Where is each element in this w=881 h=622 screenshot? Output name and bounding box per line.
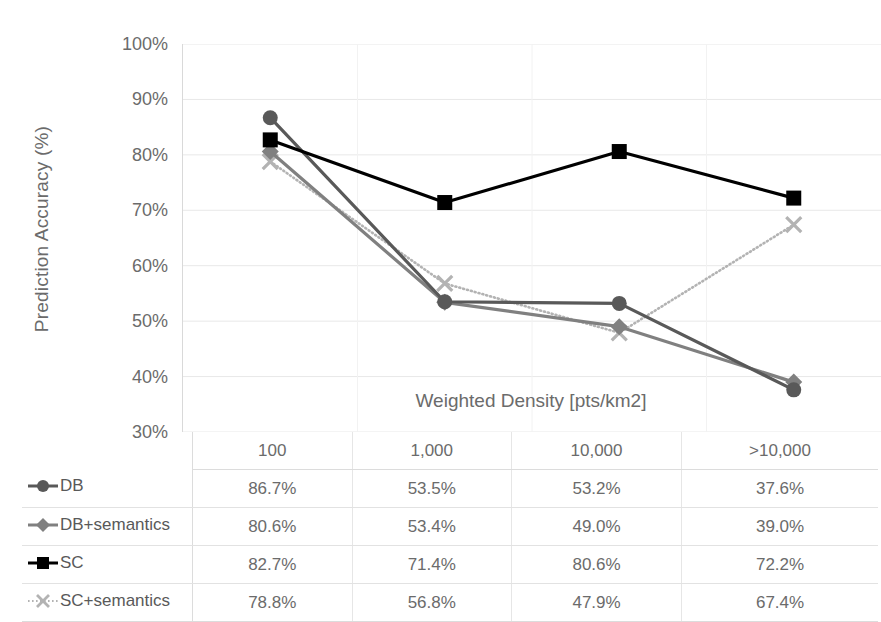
marker-circle <box>263 110 278 125</box>
cell-3-0: 78.8% <box>193 584 353 622</box>
cell-1-1: 53.4% <box>352 508 512 546</box>
cell-2-0: 82.7% <box>193 546 353 584</box>
marker-circle <box>437 294 452 309</box>
legend-marker-circle <box>28 477 58 495</box>
y-tick-60: 60% <box>132 255 168 276</box>
legend-marker-cross <box>28 592 58 610</box>
cell-0-3: 37.6% <box>682 470 878 508</box>
legend-marker-square <box>28 554 58 572</box>
legend-label: DB+semantics <box>60 515 170 535</box>
cell-3-3: 67.4% <box>682 584 878 622</box>
legend-marker-diamond <box>28 516 58 534</box>
table-row: DB+semantics 80.6%53.4%49.0%39.0% <box>22 508 878 546</box>
legend-label: SC+semantics <box>60 591 170 611</box>
marker-circle <box>612 296 627 311</box>
y-tick-90: 90% <box>132 89 168 110</box>
cell-3-2: 47.9% <box>512 584 682 622</box>
cell-2-2: 80.6% <box>512 546 682 584</box>
table-corner-cell <box>22 432 193 470</box>
column-header-1: 1,000 <box>352 432 512 470</box>
plot-svg <box>183 44 881 432</box>
cell-1-0: 80.6% <box>193 508 353 546</box>
legend-item-db-semantics: DB+semantics <box>22 508 193 546</box>
marker-square <box>437 195 452 210</box>
legend-label: DB <box>60 476 84 496</box>
legend-item-db: DB <box>22 470 193 508</box>
marker-square <box>612 144 627 159</box>
marker-square <box>263 132 278 147</box>
cell-3-1: 56.8% <box>352 584 512 622</box>
cell-1-2: 49.0% <box>512 508 682 546</box>
column-header-0: 100 <box>193 432 353 470</box>
data-table: 1001,00010,000>10,000 DB 86.7%53.5%53.2%… <box>22 432 878 622</box>
y-tick-100: 100% <box>122 34 168 55</box>
legend-item-sc-semantics: SC+semantics <box>22 584 193 622</box>
cell-0-2: 53.2% <box>512 470 682 508</box>
legend-label: SC <box>60 553 84 573</box>
y-tick-40: 40% <box>132 366 168 387</box>
table-header-row: 1001,00010,000>10,000 <box>22 432 878 470</box>
column-header-3: >10,000 <box>682 432 878 470</box>
legend-item-sc: SC <box>22 546 193 584</box>
cell-2-3: 72.2% <box>682 546 878 584</box>
y-axis-tick-labels: 30%40%50%60%70%80%90%100% <box>86 24 178 444</box>
marker-cross <box>786 217 801 232</box>
x-axis-title: Weighted Density [pts/km2] <box>182 390 880 412</box>
marker-square <box>786 191 801 206</box>
table-row: DB 86.7%53.5%53.2%37.6% <box>22 470 878 508</box>
cell-1-3: 39.0% <box>682 508 878 546</box>
y-tick-80: 80% <box>132 144 168 165</box>
y-axis-title: Prediction Accuracy (%) <box>31 79 53 379</box>
table-row: SC 82.7%71.4%80.6%72.2% <box>22 546 878 584</box>
y-tick-50: 50% <box>132 311 168 332</box>
table-row: SC+semantics 78.8%56.8%47.9%67.4% <box>22 584 878 622</box>
cell-0-1: 53.5% <box>352 470 512 508</box>
cell-2-1: 71.4% <box>352 546 512 584</box>
y-tick-70: 70% <box>132 200 168 221</box>
marker-cross <box>437 276 452 291</box>
column-header-2: 10,000 <box>512 432 682 470</box>
cell-0-0: 86.7% <box>193 470 353 508</box>
plot-area <box>182 44 880 432</box>
